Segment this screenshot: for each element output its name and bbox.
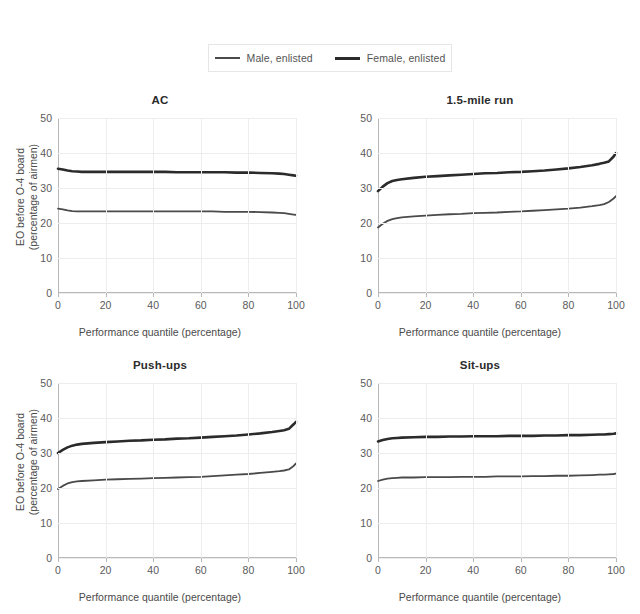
plot-area: 01020304050020406080100 bbox=[378, 118, 616, 293]
series-line-female bbox=[378, 153, 616, 191]
x-tick-mark bbox=[568, 558, 569, 562]
x-tick-label: 100 bbox=[607, 299, 625, 311]
x-tick-mark bbox=[296, 293, 297, 297]
gridline-horizontal bbox=[378, 153, 616, 154]
x-tick-mark bbox=[58, 293, 59, 297]
x-tick-label: 100 bbox=[607, 564, 625, 576]
y-tick-label: 40 bbox=[40, 147, 52, 159]
gridline-vertical bbox=[426, 118, 427, 293]
plot-area: 01020304050020406080100 bbox=[58, 383, 296, 558]
panel-title: Push-ups bbox=[0, 359, 320, 371]
legend-label-female: Female, enlisted bbox=[367, 52, 446, 64]
x-tick-mark bbox=[473, 558, 474, 562]
x-tick-label: 100 bbox=[287, 299, 305, 311]
y-tick-label: 0 bbox=[366, 552, 372, 564]
line-swatch-male-icon bbox=[215, 57, 240, 59]
series-lines bbox=[378, 383, 616, 558]
x-tick-label: 20 bbox=[100, 564, 112, 576]
x-axis-label: Performance quantile (percentage) bbox=[0, 591, 320, 603]
gridline-vertical bbox=[521, 383, 522, 558]
chart-panel-grid: AC EO before O-4 board (percentage of ai… bbox=[0, 88, 640, 614]
y-axis-label-line2: (percentage of airmen) bbox=[27, 122, 40, 272]
x-axis-label: Performance quantile (percentage) bbox=[320, 591, 640, 603]
gridline-horizontal bbox=[58, 453, 296, 454]
series-line-female bbox=[58, 169, 296, 176]
line-swatch-female-icon bbox=[335, 57, 360, 60]
gridline-vertical bbox=[426, 383, 427, 558]
y-tick-label: 10 bbox=[360, 252, 372, 264]
y-tick-label: 30 bbox=[40, 447, 52, 459]
x-tick-mark bbox=[248, 558, 249, 562]
x-tick-mark bbox=[201, 558, 202, 562]
gridline-horizontal bbox=[58, 488, 296, 489]
x-tick-mark bbox=[58, 558, 59, 562]
x-tick-label: 20 bbox=[100, 299, 112, 311]
y-axis-label-line1: EO before O-4 board bbox=[14, 387, 27, 537]
y-tick-label: 10 bbox=[40, 517, 52, 529]
x-tick-label: 100 bbox=[287, 564, 305, 576]
gridline-horizontal bbox=[58, 258, 296, 259]
chart-panel-ac: AC EO before O-4 board (percentage of ai… bbox=[0, 88, 320, 348]
series-line-male bbox=[378, 474, 616, 481]
gridline-horizontal bbox=[58, 153, 296, 154]
gridline-horizontal bbox=[378, 383, 616, 384]
x-tick-label: 60 bbox=[195, 564, 207, 576]
series-line-male bbox=[58, 464, 296, 490]
y-tick-label: 30 bbox=[360, 182, 372, 194]
chart-panel-situps: Sit-ups 01020304050020406080100 Performa… bbox=[320, 353, 640, 613]
gridline-horizontal bbox=[58, 523, 296, 524]
x-tick-mark bbox=[473, 293, 474, 297]
gridline-horizontal bbox=[58, 118, 296, 119]
x-tick-label: 40 bbox=[467, 564, 479, 576]
gridline-horizontal bbox=[58, 188, 296, 189]
series-lines bbox=[58, 118, 296, 293]
gridline-horizontal bbox=[58, 418, 296, 419]
x-tick-label: 40 bbox=[467, 299, 479, 311]
x-tick-mark bbox=[106, 293, 107, 297]
chart-panel-pushups: Push-ups EO before O-4 board (percentage… bbox=[0, 353, 320, 613]
y-tick-label: 50 bbox=[360, 112, 372, 124]
x-axis-label: Performance quantile (percentage) bbox=[320, 326, 640, 338]
legend-entry-female: Female, enlisted bbox=[335, 52, 446, 64]
y-tick-label: 40 bbox=[360, 412, 372, 424]
y-tick-label: 20 bbox=[360, 217, 372, 229]
gridline-horizontal bbox=[378, 488, 616, 489]
y-tick-label: 20 bbox=[40, 217, 52, 229]
gridline-horizontal bbox=[378, 223, 616, 224]
y-tick-label: 30 bbox=[360, 447, 372, 459]
gridline-vertical bbox=[106, 118, 107, 293]
x-axis-label: Performance quantile (percentage) bbox=[0, 326, 320, 338]
x-tick-label: 40 bbox=[147, 299, 159, 311]
gridline-horizontal bbox=[378, 523, 616, 524]
x-tick-mark bbox=[616, 558, 617, 562]
gridline-horizontal bbox=[58, 558, 296, 559]
chart-legend: Male, enlisted Female, enlisted bbox=[208, 44, 452, 72]
x-tick-label: 20 bbox=[420, 299, 432, 311]
series-line-male bbox=[58, 209, 296, 215]
series-lines bbox=[58, 383, 296, 558]
gridline-horizontal bbox=[378, 418, 616, 419]
y-tick-label: 20 bbox=[40, 482, 52, 494]
gridline-vertical bbox=[521, 118, 522, 293]
x-tick-label: 20 bbox=[420, 564, 432, 576]
y-tick-label: 0 bbox=[366, 287, 372, 299]
x-tick-mark bbox=[426, 558, 427, 562]
x-tick-mark bbox=[296, 558, 297, 562]
gridline-vertical bbox=[201, 118, 202, 293]
y-axis-label-line1: EO before O-4 board bbox=[14, 122, 27, 272]
y-axis-label: EO before O-4 board (percentage of airme… bbox=[14, 122, 40, 272]
x-tick-mark bbox=[378, 293, 379, 297]
x-tick-mark bbox=[521, 293, 522, 297]
panel-title: AC bbox=[0, 94, 320, 106]
x-tick-label: 0 bbox=[55, 564, 61, 576]
x-tick-mark bbox=[426, 293, 427, 297]
x-tick-mark bbox=[153, 293, 154, 297]
gridline-vertical bbox=[473, 383, 474, 558]
y-tick-label: 40 bbox=[360, 147, 372, 159]
gridline-horizontal bbox=[58, 223, 296, 224]
x-tick-label: 80 bbox=[563, 299, 575, 311]
y-tick-label: 0 bbox=[46, 287, 52, 299]
legend-entry-male: Male, enlisted bbox=[215, 52, 313, 64]
x-tick-label: 0 bbox=[375, 564, 381, 576]
gridline-vertical bbox=[153, 118, 154, 293]
